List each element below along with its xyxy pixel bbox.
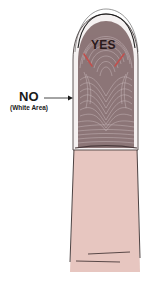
yes-label: YES <box>91 38 116 52</box>
no-label: NO <box>19 89 39 104</box>
fingertip-diagram <box>0 0 151 285</box>
no-sublabel: (White Area) <box>10 104 48 111</box>
no-arrow-head <box>68 96 73 101</box>
